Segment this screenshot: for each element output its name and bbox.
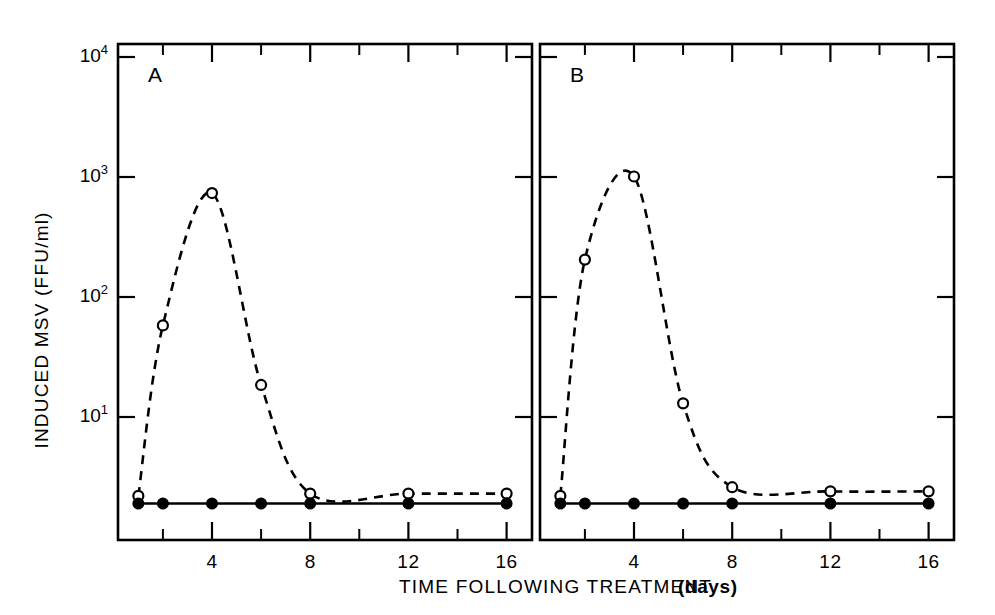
y-tick-label: 104	[80, 42, 108, 66]
data-point-closed-circle	[825, 498, 835, 508]
data-point-open-circle	[305, 489, 315, 499]
x-tick-label: 8	[727, 551, 738, 572]
x-tick-label: 12	[819, 551, 841, 572]
x-axis-tick-labels: 481216481216	[206, 551, 939, 572]
panel-a-label: A	[148, 63, 162, 86]
data-point-closed-circle	[133, 498, 143, 508]
y-axis-title: INDUCED MSV (FFU/ml)	[31, 211, 52, 448]
data-point-closed-circle	[207, 498, 217, 508]
x-axis-title-main: TIME FOLLOWING TREATMENT	[399, 576, 712, 597]
series-induced-msv-treated-a	[138, 192, 506, 501]
panel-b-label: B	[570, 63, 584, 86]
figure-root: INDUCED MSV (FFU/ml) TIME FOLLOWING TREA…	[0, 0, 995, 615]
y-tick-label: 101	[80, 402, 108, 426]
y-tick-label: 103	[80, 162, 108, 186]
data-point-closed-circle	[923, 498, 933, 508]
plot-layer	[118, 44, 954, 540]
data-point-open-circle	[256, 380, 266, 390]
data-point-open-circle	[629, 171, 639, 181]
x-tick-label: 8	[305, 551, 316, 572]
data-point-closed-circle	[158, 498, 168, 508]
panel-frame-b	[540, 44, 954, 540]
x-tick-label: 4	[206, 551, 217, 572]
data-point-closed-circle	[305, 498, 315, 508]
data-point-closed-circle	[678, 498, 688, 508]
data-point-open-circle	[924, 486, 934, 496]
data-point-open-circle	[678, 398, 688, 408]
y-axis-tick-labels: 104 103 102 101	[80, 42, 108, 426]
x-tick-label: 16	[496, 551, 518, 572]
data-point-closed-circle	[256, 498, 266, 508]
x-tick-label: 4	[628, 551, 639, 572]
data-point-closed-circle	[629, 498, 639, 508]
data-point-open-circle	[207, 188, 217, 198]
data-point-closed-circle	[555, 498, 565, 508]
x-tick-label: 12	[397, 551, 419, 572]
scientific-figure: INDUCED MSV (FFU/ml) TIME FOLLOWING TREA…	[0, 0, 995, 615]
data-point-open-circle	[580, 255, 590, 265]
data-point-closed-circle	[580, 498, 590, 508]
data-point-open-circle	[158, 320, 168, 330]
panel-a	[118, 44, 532, 540]
data-point-open-circle	[727, 482, 737, 492]
x-tick-label: 16	[918, 551, 940, 572]
data-point-closed-circle	[727, 498, 737, 508]
x-axis-title-unit: (days)	[678, 576, 738, 597]
data-point-closed-circle	[501, 498, 511, 508]
data-point-closed-circle	[403, 498, 413, 508]
panel-frame-a	[118, 44, 532, 540]
data-point-open-circle	[825, 486, 835, 496]
data-point-open-circle	[502, 489, 512, 499]
panel-b	[540, 44, 954, 540]
series-induced-msv-treated-b	[560, 171, 928, 496]
data-point-open-circle	[403, 489, 413, 499]
y-tick-label: 102	[80, 282, 108, 306]
